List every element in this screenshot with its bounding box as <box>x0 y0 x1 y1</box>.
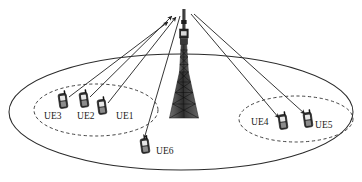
handset-screen <box>142 141 148 146</box>
ue-group-left-ellipse <box>34 84 158 136</box>
handset-keypad <box>82 100 88 106</box>
handset-screen <box>305 115 311 120</box>
handset-screen <box>99 102 105 107</box>
handset-screen <box>60 96 66 101</box>
handset-screen <box>280 117 286 122</box>
ue-label-ue3: UE3 <box>44 111 62 121</box>
handset-keypad <box>61 101 67 107</box>
ue-device-ue5 <box>302 109 313 128</box>
handset-keypad <box>100 107 106 113</box>
tower-antenna-mast <box>182 9 185 29</box>
ue-label-ue4: UE4 <box>251 117 269 127</box>
ue-device-ue2 <box>78 89 89 108</box>
ue-label-ue1: UE1 <box>116 111 134 121</box>
ue-device-ue1 <box>96 96 107 115</box>
diagram-canvas: UE1UE2UE3UE4UE5UE6 <box>0 0 362 182</box>
handset-keypad <box>281 122 287 128</box>
ue-label-ue2: UE2 <box>77 111 95 121</box>
tower-equipment-box-lower <box>180 39 187 45</box>
downlink-arrow-ue5 <box>194 14 305 114</box>
ue-device-ue4 <box>277 111 288 130</box>
ue-device-ue3 <box>57 90 68 109</box>
base-station-tower <box>170 9 199 118</box>
cellular-network-diagram: UE1UE2UE3UE4UE5UE6 <box>0 0 362 182</box>
handset-keypad <box>306 120 312 126</box>
ue-label-ue5: UE5 <box>315 120 333 130</box>
ue-label-ue6: UE6 <box>156 146 174 156</box>
tower-antenna-element-top <box>181 20 186 24</box>
handset-keypad <box>143 146 149 152</box>
tower-equipment-panel <box>181 31 187 35</box>
handset-screen <box>81 95 87 100</box>
downlink-arrow-ue4 <box>191 14 279 118</box>
